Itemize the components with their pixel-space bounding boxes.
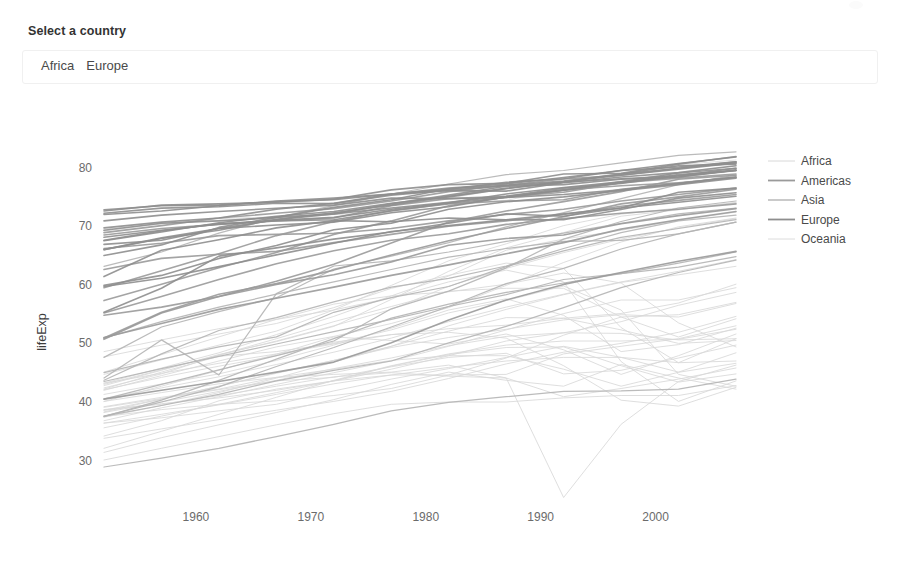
app-root: Select a country Africa Europe 304050607… [0,0,901,569]
legend-label[interactable]: Asia [801,193,825,207]
legend-label[interactable]: Americas [801,174,851,188]
selected-tokens: Africa Europe [40,58,129,73]
selected-token-0[interactable]: Africa [40,58,75,73]
faint-mark-icon [849,1,863,9]
y-tick-label: 60 [79,278,93,292]
y-axis-title: lifeExp [35,313,49,351]
y-tick-label: 40 [79,395,93,409]
x-tick-label: 1990 [527,510,554,524]
x-tick-label: 2000 [642,510,669,524]
y-tick-label: 70 [79,219,93,233]
y-tick-label: 30 [79,454,93,468]
legend-label[interactable]: Oceania [801,232,846,246]
selected-token-1[interactable]: Europe [85,58,129,73]
y-tick-label: 80 [79,161,93,175]
select-country-label: Select a country [28,24,126,38]
lifeexp-line-chart[interactable]: 30405060708019601970198019902000lifeExpA… [0,120,901,550]
x-tick-label: 1960 [183,510,210,524]
select-country-input[interactable] [22,50,878,84]
x-tick-label: 1970 [297,510,324,524]
y-tick-label: 50 [79,336,93,350]
legend-label[interactable]: Europe [801,213,840,227]
x-tick-label: 1980 [412,510,439,524]
chart-canvas: 30405060708019601970198019902000lifeExpA… [0,120,901,550]
legend-label[interactable]: Africa [801,154,832,168]
